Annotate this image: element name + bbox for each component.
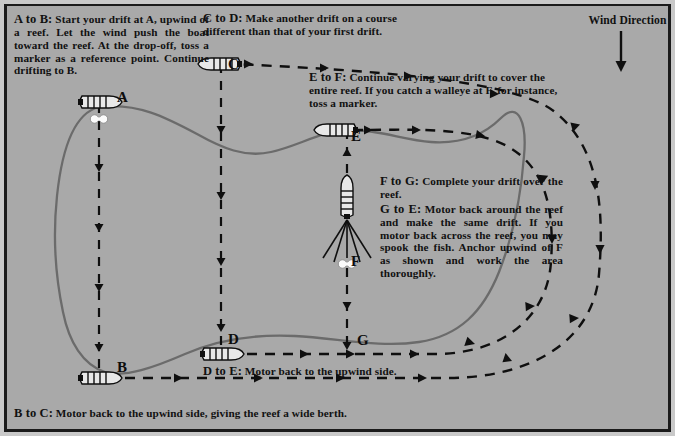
wind-direction-label: Wind Direction	[575, 14, 668, 27]
callout-b-to-c-lead: B to C:	[14, 406, 53, 420]
callout-d-to-e-lead: D to E:	[203, 364, 242, 378]
point-label-e: E	[351, 128, 361, 145]
point-label-a: A	[117, 89, 128, 106]
point-label-b: B	[117, 359, 127, 376]
anchor-lines-icon	[323, 220, 371, 262]
boat-icon-F	[341, 175, 353, 219]
callout-a-to-b-lead: A to B:	[14, 12, 52, 26]
screenshot-root: A to B: Start your drift at A, upwind of…	[0, 0, 675, 436]
callout-e-to-f: E to F: Continue varying your drift to c…	[309, 70, 575, 109]
wind-direction-arrow-icon	[616, 31, 627, 72]
callout-g-to-e-lead: G to E:	[380, 202, 421, 216]
callout-e-to-f-body: Continue varying your drift to cover the…	[309, 71, 557, 109]
callout-b-to-c: B to C: Motor back to the upwind side, g…	[14, 406, 484, 420]
callout-c-to-d: C to D: Make another drift on a course d…	[203, 11, 418, 38]
callout-c-to-d-lead: C to D:	[203, 11, 243, 25]
callout-b-to-c-body: Motor back to the upwind side, giving th…	[53, 407, 347, 419]
diagram-canvas: A to B: Start your drift at A, upwind of…	[7, 6, 668, 429]
point-label-g: G	[357, 332, 369, 349]
callout-f-to-g-lead: F to G:	[380, 174, 419, 188]
callout-d-to-e: D to E: Motor back to the upwind side.	[203, 364, 503, 378]
callout-e-to-f-lead: E to F:	[309, 70, 347, 84]
callout-f-to-g: F to G: Complete your drift over the ree…	[380, 174, 563, 201]
boat-icon-A	[78, 96, 122, 108]
drift-arrow-E-to-F	[343, 148, 352, 156]
callout-d-to-e-body: Motor back to the upwind side.	[242, 365, 397, 377]
callout-a-to-b: A to B: Start your drift at A, upwind of…	[14, 12, 209, 77]
callout-g-to-e: G to E: Motor back around the reef and m…	[380, 202, 563, 279]
boat-icon-D	[200, 348, 244, 360]
boat-icon-B	[78, 372, 122, 384]
point-label-c: C	[228, 56, 239, 73]
point-label-d: D	[228, 331, 239, 348]
point-label-f: F	[351, 253, 360, 270]
